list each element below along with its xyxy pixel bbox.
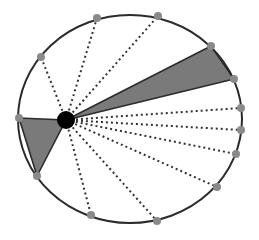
boundary-point: [93, 14, 101, 22]
boundary-point: [15, 114, 23, 122]
boundary-point: [230, 75, 238, 83]
dotted-chord: [41, 57, 66, 120]
boundary-point: [232, 150, 240, 158]
shaded-triangle: [66, 46, 234, 120]
diagram-canvas: [0, 0, 259, 240]
boundary-point: [213, 183, 221, 191]
shaded-triangle: [19, 118, 66, 176]
dotted-chord: [66, 120, 91, 215]
boundary-point: [33, 172, 41, 180]
ellipse-points-diagram: [0, 0, 259, 240]
boundary-point: [237, 126, 245, 134]
dotted-chord: [66, 120, 157, 221]
boundary-point: [87, 211, 95, 219]
boundary-point: [154, 12, 162, 20]
dotted-chord: [66, 120, 217, 187]
boundary-point: [37, 53, 45, 61]
boundary-point: [207, 42, 215, 50]
boundary-point: [237, 104, 245, 112]
dotted-chord: [66, 18, 97, 120]
center-point: [57, 111, 75, 129]
boundary-point: [153, 217, 161, 225]
